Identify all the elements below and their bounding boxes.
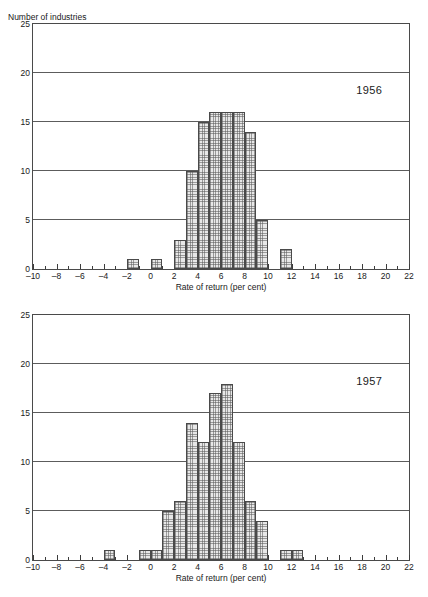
histogram-bar xyxy=(174,501,186,560)
x-tick-15 xyxy=(327,557,328,560)
x-tick-16 xyxy=(339,555,340,560)
x-tick-19 xyxy=(374,557,375,560)
x-tick-10 xyxy=(268,555,269,560)
histogram-bar xyxy=(162,511,174,560)
x-tick-label--4: –4 xyxy=(99,563,108,572)
x-tick-20 xyxy=(386,264,387,269)
x-tick-label-0: 0 xyxy=(148,563,153,572)
histogram-bar xyxy=(127,259,139,269)
histogram-bar xyxy=(209,112,221,269)
x-tick-label-14: 14 xyxy=(310,272,319,281)
y-tick-label-5: 5 xyxy=(25,216,30,225)
x-tick-label-6: 6 xyxy=(219,272,224,281)
histogram-bar xyxy=(245,501,257,560)
x-tick-21 xyxy=(397,266,398,269)
x-tick--7 xyxy=(68,557,69,560)
x-tick-label-22: 22 xyxy=(404,563,413,572)
x-tick-12 xyxy=(292,264,293,269)
x-tick-13 xyxy=(303,557,304,560)
x-tick-13 xyxy=(303,266,304,269)
x-tick-label-4: 4 xyxy=(195,563,200,572)
histogram-bar xyxy=(221,384,233,560)
x-tick-label--10: –10 xyxy=(26,563,40,572)
histogram-bar xyxy=(292,550,304,560)
x-tick-label--6: –6 xyxy=(75,272,84,281)
x-tick-label-2: 2 xyxy=(172,563,177,572)
chart-panel-1957: 1957 0510152025–10–8–6–4–202468101214161… xyxy=(0,306,428,597)
year-annotation-1957: 1957 xyxy=(356,375,382,387)
x-tick--9 xyxy=(45,266,46,269)
y-tick-label-20: 20 xyxy=(21,360,30,369)
gridline-y-20 xyxy=(33,363,409,364)
plot-area-1956: 1956 0510152025–10–8–6–4–202468101214161… xyxy=(32,23,410,270)
x-tick--1 xyxy=(139,266,140,269)
year-annotation-1956: 1956 xyxy=(356,84,382,96)
x-tick-label-14: 14 xyxy=(310,563,319,572)
x-tick-label-10: 10 xyxy=(263,563,272,572)
y-tick-label-25: 25 xyxy=(21,311,30,320)
histogram-bar xyxy=(233,112,245,269)
x-tick--3 xyxy=(115,557,116,560)
x-tick-label--6: –6 xyxy=(75,563,84,572)
x-tick--8 xyxy=(57,555,58,560)
x-tick-label-8: 8 xyxy=(242,563,247,572)
x-tick-label-4: 4 xyxy=(195,272,200,281)
figure-page: · · · Number of industries 1956 05101520… xyxy=(0,0,428,597)
histogram-bar xyxy=(280,550,292,560)
x-tick-label-20: 20 xyxy=(381,272,390,281)
histogram-bar xyxy=(186,423,198,560)
y-tick-label-10: 10 xyxy=(21,167,30,176)
x-tick-label--10: –10 xyxy=(26,272,40,281)
x-tick-label-18: 18 xyxy=(357,563,366,572)
x-tick-22 xyxy=(409,555,410,560)
x-tick-label--2: –2 xyxy=(122,272,131,281)
histogram-bar xyxy=(198,122,210,269)
x-tick-15 xyxy=(327,266,328,269)
x-tick-label--8: –8 xyxy=(52,272,61,281)
x-tick-label-10: 10 xyxy=(263,272,272,281)
x-tick--4 xyxy=(104,264,105,269)
x-tick--5 xyxy=(92,557,93,560)
x-tick-14 xyxy=(315,555,316,560)
x-tick-22 xyxy=(409,264,410,269)
x-tick--3 xyxy=(115,266,116,269)
x-axis-title: Rate of return (per cent) xyxy=(176,282,267,292)
x-tick-label-16: 16 xyxy=(334,272,343,281)
x-tick-label-12: 12 xyxy=(287,563,296,572)
histogram-bar xyxy=(256,521,268,560)
x-tick-17 xyxy=(350,557,351,560)
x-tick-16 xyxy=(339,264,340,269)
x-tick-label-2: 2 xyxy=(172,272,177,281)
x-tick--7 xyxy=(68,266,69,269)
x-tick-19 xyxy=(374,266,375,269)
x-tick-20 xyxy=(386,555,387,560)
x-tick-21 xyxy=(397,557,398,560)
x-tick--5 xyxy=(92,266,93,269)
histogram-bar xyxy=(256,220,268,269)
histogram-bar xyxy=(104,550,116,560)
histogram-bar xyxy=(151,550,163,560)
histogram-bar xyxy=(209,393,221,560)
x-tick-18 xyxy=(362,264,363,269)
y-tick-label-20: 20 xyxy=(21,69,30,78)
gridline-y-20 xyxy=(33,72,409,73)
histogram-bar xyxy=(221,112,233,269)
histogram-bar xyxy=(280,249,292,269)
x-tick-label-8: 8 xyxy=(242,272,247,281)
x-tick-label-20: 20 xyxy=(381,563,390,572)
x-axis-title: Rate of return (per cent) xyxy=(176,573,267,583)
histogram-bar xyxy=(174,240,186,269)
x-tick-label-0: 0 xyxy=(148,272,153,281)
x-tick-14 xyxy=(315,264,316,269)
x-tick--6 xyxy=(80,555,81,560)
x-tick-label-12: 12 xyxy=(287,272,296,281)
plot-area-1957: 1957 0510152025–10–8–6–4–202468101214161… xyxy=(32,314,410,561)
histogram-bar xyxy=(198,442,210,560)
x-tick--10 xyxy=(33,264,34,269)
histogram-bar xyxy=(186,171,198,269)
y-tick-label-15: 15 xyxy=(21,118,30,127)
histogram-bar xyxy=(233,442,245,560)
x-tick--10 xyxy=(33,555,34,560)
y-tick-label-25: 25 xyxy=(21,20,30,29)
cropped-text-remnant: · · · xyxy=(150,0,280,3)
